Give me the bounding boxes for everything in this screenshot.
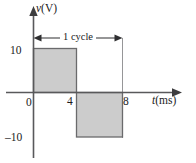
waveform-negative-half-cycle: [77, 93, 123, 138]
cycle-arrowhead-left: [34, 35, 42, 42]
waveform-figure: v(V) t(ms) 10 –10 0 4 8 1 cycle: [0, 0, 196, 163]
x-tick-label-4: 4: [67, 96, 73, 108]
x-tick-label-origin: 0: [26, 97, 32, 109]
x-tick-label-8: 8: [123, 96, 129, 108]
y-tick-label-positive: 10: [10, 45, 22, 57]
cycle-arrowhead-right: [115, 35, 123, 42]
x-axis-title: t(ms): [152, 95, 176, 107]
waveform-plot: [0, 0, 196, 163]
cycle-annotation-label: 1 cycle: [63, 32, 93, 43]
y-tick-label-negative: –10: [5, 132, 22, 144]
y-axis-unit: (V): [41, 2, 57, 14]
waveform-positive-half-cycle: [34, 49, 77, 93]
x-axis-unit: (ms): [155, 94, 176, 106]
y-axis-title: v(V): [36, 3, 57, 15]
